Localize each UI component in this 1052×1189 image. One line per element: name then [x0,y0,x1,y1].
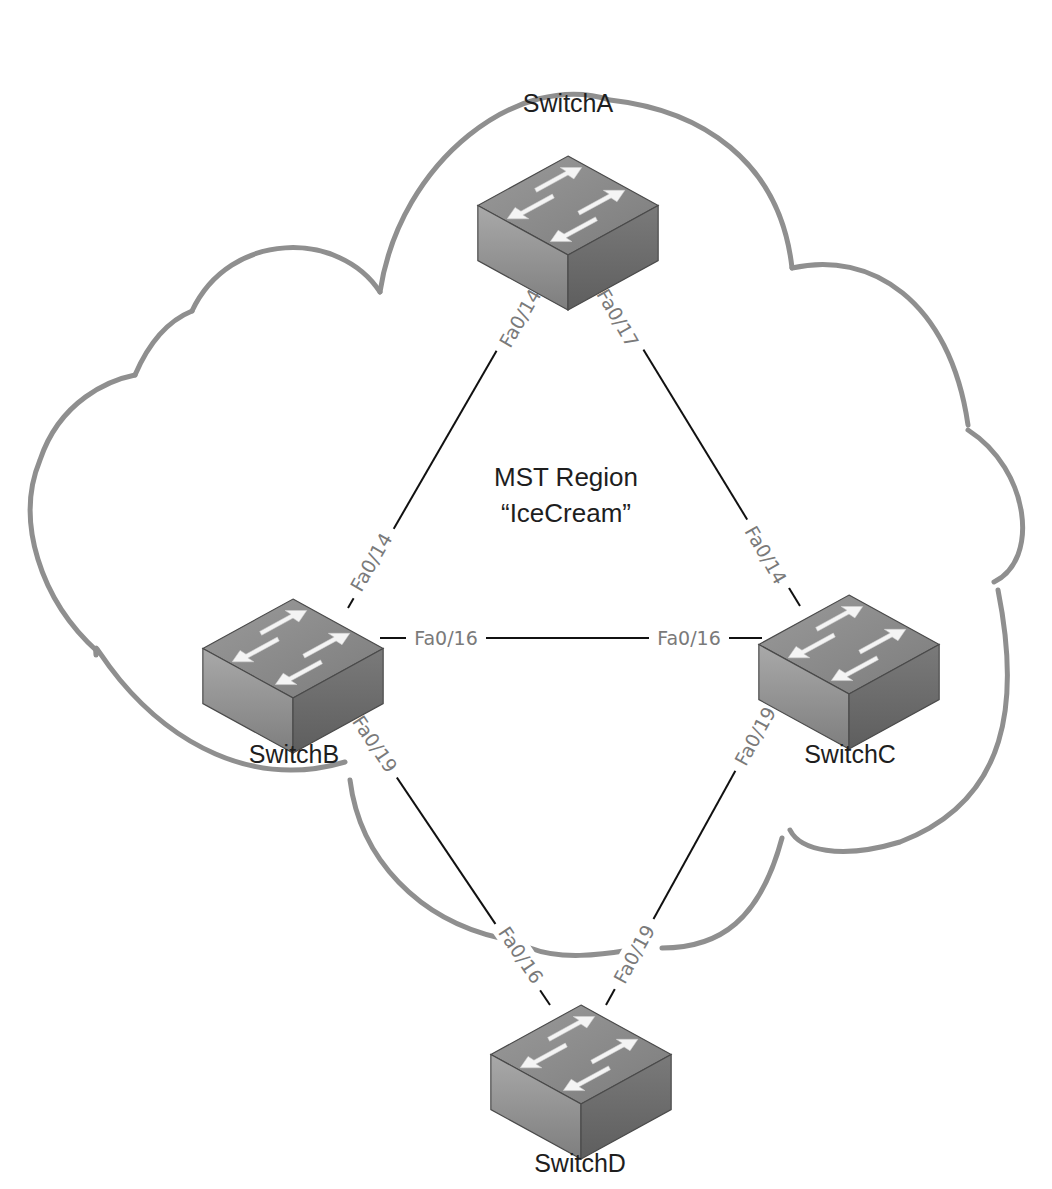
switch-icon [478,156,658,310]
port-label-b-fa0-14: Fa0/14 [340,521,401,602]
switch-b-label: SwitchB [249,740,339,768]
switch-a-label: SwitchA [523,89,614,117]
switch-icon [759,595,939,749]
svg-text:Fa0/14: Fa0/14 [346,529,397,595]
port-label-b-fa0-16: Fa0/16 [406,625,486,649]
switch-d-label: SwitchD [534,1149,626,1177]
mst-region-label: MST Region “IceCream” [494,462,638,528]
svg-text:Fa0/14: Fa0/14 [495,285,546,351]
switch-c-label: SwitchC [804,740,896,768]
region-name: “IceCream” [501,498,631,528]
port-label-c-fa0-16: Fa0/16 [649,625,729,649]
switch-b[interactable]: SwitchB [203,599,383,768]
switch-c[interactable]: SwitchC [759,595,939,768]
svg-text:Fa0/17: Fa0/17 [593,285,644,351]
switch-icon [491,1005,671,1159]
svg-text:Fa0/14: Fa0/14 [741,522,792,588]
svg-text:Fa0/19: Fa0/19 [730,703,780,769]
network-diagram: Fa0/14 Fa0/14 Fa0/17 Fa0/14 Fa0/16 Fa0/1… [0,0,1052,1189]
switch-d[interactable]: SwitchD [491,1005,671,1177]
svg-text:Fa0/16: Fa0/16 [657,627,721,649]
region-title: MST Region [494,462,638,492]
svg-text:Fa0/16: Fa0/16 [414,627,478,649]
port-label-c-fa0-14: Fa0/14 [736,514,797,595]
switch-a[interactable]: SwitchA [478,89,658,310]
